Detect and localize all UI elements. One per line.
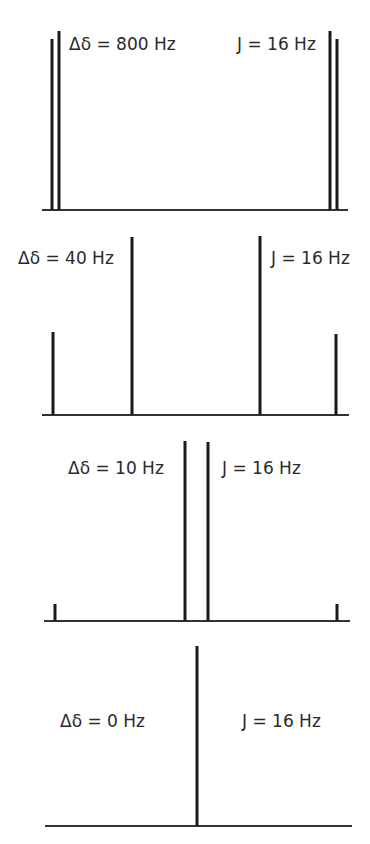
spectrum-panel-delta-0: Δδ = 0 Hz J = 16 Hz: [45, 646, 352, 826]
chemical-shift-difference-label: Δδ = 800 Hz: [69, 34, 176, 54]
spectrum-panel-delta-40: Δδ = 40 Hz J = 16 Hz: [18, 236, 350, 415]
chemical-shift-difference-label: Δδ = 10 Hz: [68, 458, 164, 478]
nmr-ab-system-diagram: Δδ = 800 Hz J = 16 Hz Δδ = 40 Hz J = 16 …: [0, 0, 370, 844]
coupling-constant-label: J = 16 Hz: [236, 34, 316, 54]
coupling-constant-label: J = 16 Hz: [270, 248, 350, 268]
chemical-shift-difference-label: Δδ = 40 Hz: [18, 248, 114, 268]
coupling-constant-label: J = 16 Hz: [241, 711, 321, 731]
spectrum-panel-delta-800: Δδ = 800 Hz J = 16 Hz: [42, 31, 348, 210]
coupling-constant-label: J = 16 Hz: [221, 458, 301, 478]
spectrum-panel-delta-10: Δδ = 10 Hz J = 16 Hz: [44, 441, 350, 621]
chemical-shift-difference-label: Δδ = 0 Hz: [60, 711, 145, 731]
